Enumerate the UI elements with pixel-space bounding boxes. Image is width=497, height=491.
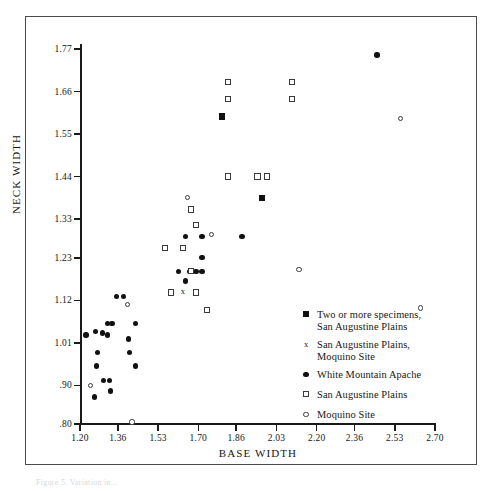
y-axis-tick xyxy=(74,385,81,387)
y-axis-tick-label: 1.77 xyxy=(28,44,72,54)
y-tick-text: 1.55 xyxy=(32,129,72,139)
data-point-filled-circle xyxy=(126,336,131,341)
legend-entry: Two or more specimens,San Augustine Plai… xyxy=(303,309,453,332)
legend-marker-glyph xyxy=(303,412,308,417)
legend-marker-glyph xyxy=(303,391,309,397)
y-axis-line xyxy=(80,44,82,425)
data-point-cross: x xyxy=(179,287,187,295)
y-axis-tick xyxy=(74,48,81,50)
data-point-filled-circle xyxy=(133,363,138,368)
y-tick-text: 1.66 xyxy=(32,87,72,97)
y-axis-tick xyxy=(74,176,81,178)
data-point-open-square xyxy=(289,96,295,102)
x-axis-label: BASE WIDTH xyxy=(80,447,436,459)
legend-label-line: Moquino Site xyxy=(317,351,410,363)
legend-label-line: Moquino Site xyxy=(317,409,375,421)
data-point-open-circle xyxy=(129,419,134,424)
data-point-filled-square xyxy=(219,113,225,119)
data-point-filled-circle xyxy=(105,332,110,337)
data-point-open-square xyxy=(264,173,270,179)
legend-entry: Moquino Site xyxy=(303,409,453,422)
y-axis-tick xyxy=(74,257,81,259)
y-tick-text: .90 xyxy=(32,380,72,390)
y-axis-tick-label: 1.01 xyxy=(28,338,72,348)
data-point-filled-circle xyxy=(109,321,114,326)
legend-marker-cross: x xyxy=(303,339,317,352)
legend-marker-filled-square xyxy=(303,309,317,322)
y-axis-tick xyxy=(74,133,81,135)
data-point-open-square xyxy=(188,268,194,274)
data-point-filled-circle xyxy=(92,394,97,399)
y-axis-label: NECK WIDTH xyxy=(10,114,22,234)
data-point-open-square xyxy=(225,96,231,102)
legend-label-line: Two or more specimens, xyxy=(317,309,421,321)
y-axis-tick-label: .90 xyxy=(28,380,72,390)
figure-scatter-plot: 1.771.661.551.441.331.231.121.01.90.80 1… xyxy=(0,0,497,491)
data-point-filled-circle xyxy=(83,332,88,337)
y-tick-text: 1.44 xyxy=(32,172,72,182)
data-point-open-square xyxy=(180,245,186,251)
y-axis-tick xyxy=(74,342,81,344)
data-point-filled-circle xyxy=(183,278,188,283)
data-point-filled-circle xyxy=(94,363,99,368)
data-point-open-square xyxy=(225,173,231,179)
y-tick-text: 1.01 xyxy=(32,338,72,348)
y-axis-tick-label: 1.44 xyxy=(28,172,72,182)
chart-legend: Two or more specimens,San Augustine Plai… xyxy=(303,309,453,429)
legend-label-line: San Augustine Plains, xyxy=(317,339,410,351)
x-axis-tick-label: 1.53 xyxy=(136,433,180,444)
y-tick-text: 1.77 xyxy=(32,44,72,54)
data-point-open-square xyxy=(204,307,210,313)
y-tick-text: .80 xyxy=(32,419,72,429)
x-axis-tick-label: 1.36 xyxy=(96,433,140,444)
legend-entry: San Augustine Plains xyxy=(303,389,453,402)
x-axis-tick xyxy=(157,424,159,431)
data-point-open-square xyxy=(193,222,199,228)
data-point-filled-circle xyxy=(239,234,244,239)
y-tick-text: 1.33 xyxy=(32,214,72,224)
data-point-open-square xyxy=(254,173,260,179)
data-point-filled-circle xyxy=(93,329,98,334)
x-axis-tick xyxy=(79,424,81,431)
x-axis-tick xyxy=(117,424,119,431)
legend-label-line: San Augustine Plains xyxy=(317,389,407,401)
x-axis-tick-label: 2.53 xyxy=(373,433,417,444)
y-axis-tick xyxy=(74,218,81,220)
data-point-open-square xyxy=(289,79,295,85)
x-axis-tick xyxy=(276,424,278,431)
legend-marker-glyph xyxy=(303,311,309,317)
legend-entry: xSan Augustine Plains,Moquino Site xyxy=(303,339,453,362)
data-point-open-square xyxy=(188,206,194,212)
data-point-open-square xyxy=(162,245,168,251)
data-point-open-circle xyxy=(296,267,301,272)
x-axis-tick-label: 2.70 xyxy=(413,433,457,444)
y-tick-text: 1.12 xyxy=(32,295,72,305)
y-axis-tick-label: 1.33 xyxy=(28,214,72,224)
legend-label: Moquino Site xyxy=(317,409,375,421)
data-point-filled-circle xyxy=(199,255,204,260)
legend-label-line: White Mountain Apache xyxy=(317,369,421,381)
data-point-filled-circle xyxy=(176,269,181,274)
x-axis-tick xyxy=(198,424,200,431)
data-point-filled-circle xyxy=(374,52,379,57)
data-point-filled-circle xyxy=(199,234,204,239)
legend-marker-filled-circle xyxy=(303,369,317,382)
legend-marker-glyph xyxy=(303,372,308,377)
y-axis-tick-label: 1.23 xyxy=(28,253,72,263)
legend-entry: White Mountain Apache xyxy=(303,369,453,382)
legend-marker-glyph: x xyxy=(302,340,310,348)
x-axis-tick-label: 2.36 xyxy=(333,433,377,444)
x-axis-tick-label: 1.86 xyxy=(214,433,258,444)
y-axis-tick xyxy=(74,300,81,302)
data-point-filled-square xyxy=(259,195,265,201)
legend-label: San Augustine Plains,Moquino Site xyxy=(317,339,410,362)
data-point-open-square xyxy=(225,79,231,85)
legend-label: San Augustine Plains xyxy=(317,389,407,401)
data-point-open-square xyxy=(193,289,199,295)
data-point-open-circle xyxy=(125,302,130,307)
data-point-filled-circle xyxy=(199,269,204,274)
y-axis-tick xyxy=(74,91,81,93)
legend-marker-open-circle xyxy=(303,409,317,422)
legend-marker-open-square xyxy=(303,389,317,402)
y-tick-text: 1.23 xyxy=(32,253,72,263)
